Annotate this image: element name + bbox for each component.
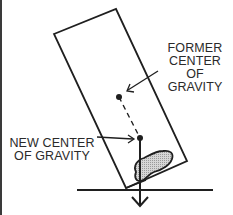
cog-diagram [0,0,233,215]
new-cog-label: NEW CENTER OF GRAVITY [4,137,100,163]
former-cog-point [116,94,122,100]
block-base-contact [126,180,146,188]
former-cog-label-line-4: GRAVITY [160,81,230,94]
former-cog-pointer [128,71,158,90]
former-cog-label: FORMER CENTER OF GRAVITY [160,42,230,94]
new-cog-label-line-2: OF GRAVITY [4,150,100,163]
cog-shift-dashed-line [119,97,140,138]
